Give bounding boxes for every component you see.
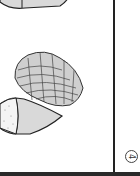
page-number: 4 — [125, 150, 138, 163]
illustrations — [0, 0, 140, 176]
book-page: 4 — [0, 0, 140, 176]
page-divider-line — [113, 0, 115, 172]
seed-top-illustration — [0, 0, 68, 8]
page-edge — [0, 172, 140, 176]
cone-illustration — [15, 52, 83, 106]
